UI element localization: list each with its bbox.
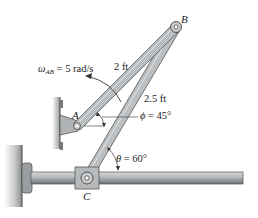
- label-length-BC: 2.5 ft: [144, 94, 166, 105]
- mechanism-diagram: [0, 0, 258, 218]
- pin-B: [171, 22, 182, 33]
- pin-A: [74, 123, 81, 130]
- label-phi: ϕ = 45°: [140, 111, 171, 122]
- label-length-AB: 2 ft: [114, 62, 128, 73]
- collar-C: [75, 167, 99, 189]
- guide-rod: [31, 172, 243, 184]
- label-B: B: [181, 14, 188, 25]
- label-A: A: [72, 110, 79, 121]
- label-theta: θ = 60°: [116, 154, 147, 165]
- label-angular-velocity: ωAB = 5 rad/s: [38, 64, 93, 76]
- left-wall-support: [4, 145, 32, 207]
- label-C: C: [83, 191, 90, 202]
